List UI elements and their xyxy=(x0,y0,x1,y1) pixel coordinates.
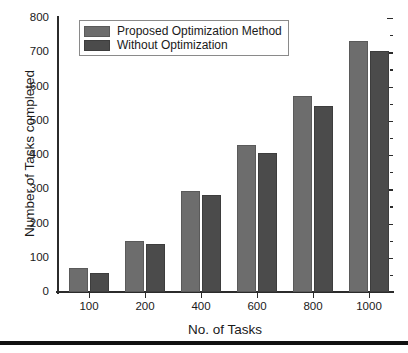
plot-area xyxy=(57,18,393,292)
bottom-divider-rule xyxy=(0,341,408,345)
y-minor-tick-550 xyxy=(390,104,394,105)
bar-200-series-2 xyxy=(146,244,165,292)
y-tick-0 xyxy=(387,292,393,293)
y-tick-label-0: 0 xyxy=(43,286,49,298)
bar-1000-series-2 xyxy=(370,51,389,292)
x-tick-label-600: 600 xyxy=(247,301,266,313)
bar-800-series-1 xyxy=(293,96,312,292)
y-minor-tick-50 xyxy=(390,275,394,276)
x-tick-label-800: 800 xyxy=(303,301,322,313)
y-minor-tick-350 xyxy=(390,172,394,173)
bar-chart-figure: 0100200300400500600700800 10020040060080… xyxy=(0,0,408,353)
x-tick-label-200: 200 xyxy=(135,301,154,313)
bar-800-series-2 xyxy=(314,106,333,292)
y-minor-tick-250 xyxy=(390,206,394,207)
bar-600-series-1 xyxy=(237,145,256,292)
y-axis-title: Number of Tasks completed xyxy=(22,29,37,279)
bar-1000-series-1 xyxy=(349,41,368,292)
legend-item-without: Without Optimization xyxy=(84,38,282,52)
x-axis-title: No. of Tasks xyxy=(57,322,393,337)
x-tick-800 xyxy=(313,292,314,298)
x-tick-600 xyxy=(257,292,258,298)
x-tick-label-1000: 1000 xyxy=(356,301,382,313)
legend-label-without: Without Optimization xyxy=(117,39,228,51)
legend-item-proposed: Proposed Optimization Method xyxy=(84,24,282,38)
x-tick-label-400: 400 xyxy=(191,301,210,313)
x-tick-100 xyxy=(89,292,90,298)
x-tick-label-100: 100 xyxy=(79,301,98,313)
legend-swatch-icon-without xyxy=(84,40,110,51)
bar-400-series-1 xyxy=(181,191,200,292)
y-minor-tick-750 xyxy=(390,35,394,36)
x-tick-400 xyxy=(201,292,202,298)
bar-600-series-2 xyxy=(258,153,277,292)
y-minor-tick-650 xyxy=(390,69,394,70)
y-tick-label-800: 800 xyxy=(30,12,49,24)
x-tick-1000 xyxy=(369,292,370,298)
bar-200-series-1 xyxy=(125,241,144,292)
y-minor-tick-150 xyxy=(390,241,394,242)
chart-legend: Proposed Optimization Method Without Opt… xyxy=(79,20,289,56)
legend-label-proposed: Proposed Optimization Method xyxy=(117,25,282,37)
x-tick-200 xyxy=(145,292,146,298)
bar-100-series-2 xyxy=(90,273,109,292)
legend-swatch-icon-proposed xyxy=(84,26,110,37)
bar-400-series-2 xyxy=(202,195,221,292)
bar-100-series-1 xyxy=(69,268,88,292)
y-tick-800 xyxy=(387,18,393,19)
y-minor-tick-450 xyxy=(390,138,394,139)
